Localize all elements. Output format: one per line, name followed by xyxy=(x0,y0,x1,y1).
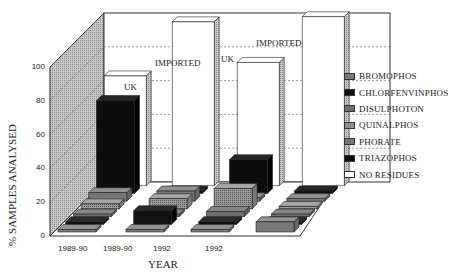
x-category-label: 1992 xyxy=(153,244,171,253)
legend-item: DISULPHOTON xyxy=(344,101,449,117)
group-label: IMPORTED xyxy=(155,58,200,68)
legend-swatch-icon xyxy=(344,155,355,162)
group-label: IMPORTED xyxy=(256,38,301,48)
x-category-label: 1989-90 xyxy=(58,244,87,253)
legend-item: BROMOPHOS xyxy=(344,68,449,84)
legend-label: CHLORFENVINPHOS xyxy=(359,88,449,98)
x-axis-label: YEAR xyxy=(148,258,178,270)
y-tick: 100 xyxy=(32,62,45,71)
legend-item: NO RESIDUES xyxy=(344,166,449,182)
bar xyxy=(73,214,111,217)
bar xyxy=(134,211,172,225)
legend-label: QUINALPHOS xyxy=(359,120,419,130)
bar xyxy=(126,230,164,233)
legend-swatch-icon xyxy=(344,122,355,129)
y-tick: 60 xyxy=(36,130,45,139)
bar xyxy=(199,222,237,225)
y-tick: 40 xyxy=(36,163,45,172)
legend: BROMOPHOSCHLORFENVINPHOSDISULPHOTONQUINA… xyxy=(344,68,449,183)
group-label: UK xyxy=(124,82,137,92)
legend-swatch-icon xyxy=(344,105,355,112)
bar xyxy=(295,191,333,194)
y-axis-label: % SAMPLES ANALYSED xyxy=(2,100,22,270)
bar xyxy=(287,199,325,202)
x-category-label: 1989-90 xyxy=(103,244,132,253)
bar xyxy=(271,214,309,217)
legend-label: DISULPHOTON xyxy=(359,104,424,114)
bar xyxy=(66,222,104,225)
bar xyxy=(191,230,229,233)
bar xyxy=(172,22,214,186)
bar xyxy=(58,230,96,233)
legend-item: TRIAZOPHOS xyxy=(344,150,449,166)
bar xyxy=(81,204,119,209)
legend-item: QUINALPHOS xyxy=(344,117,449,133)
bar xyxy=(302,17,344,186)
y-tick: 80 xyxy=(36,96,45,105)
legend-label: PHORATE xyxy=(359,137,401,147)
legend-swatch-icon xyxy=(344,73,355,80)
legend-item: CHLORFENVINPHOS xyxy=(344,84,449,100)
y-tick: 20 xyxy=(36,197,45,206)
bar xyxy=(279,206,317,209)
bar xyxy=(214,189,252,209)
y-tick: 0 xyxy=(41,231,45,240)
legend-label: NO RESIDUES xyxy=(359,170,419,180)
x-category-label: 1992 xyxy=(205,244,223,253)
legend-label: TRIAZOPHOS xyxy=(359,153,417,163)
legend-swatch-icon xyxy=(344,89,355,96)
group-label: UK xyxy=(221,54,234,64)
bar xyxy=(256,222,294,232)
bar xyxy=(97,101,135,194)
legend-swatch-icon xyxy=(344,138,355,145)
legend-label: BROMOPHOS xyxy=(359,71,417,81)
legend-item: PHORATE xyxy=(344,134,449,150)
legend-swatch-icon xyxy=(344,171,355,178)
bar xyxy=(206,212,244,217)
